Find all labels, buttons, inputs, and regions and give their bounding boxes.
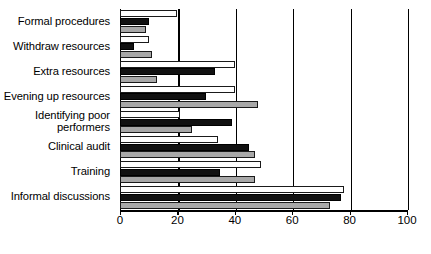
bar — [120, 76, 157, 83]
category-label-line: Evening up resources — [0, 90, 110, 102]
category-label-line: Withdraw resources — [0, 40, 110, 52]
category-label-line: Informal discussions — [0, 190, 110, 202]
bar — [120, 18, 149, 25]
gridline-100 — [408, 9, 409, 210]
bar — [120, 126, 192, 133]
category-label: Evening up resources — [0, 90, 110, 102]
bar — [120, 61, 235, 68]
category-label-line: Formal procedures — [0, 15, 110, 27]
bar — [120, 10, 177, 17]
bar — [120, 36, 149, 43]
x-tick-label: 40 — [228, 214, 241, 226]
bar — [120, 43, 134, 50]
bar — [120, 169, 220, 176]
category-label: Extra resources — [0, 65, 110, 77]
gridline-80 — [351, 9, 352, 210]
bar — [120, 93, 206, 100]
category-label-column: Formal proceduresWithdraw resourcesExtra… — [0, 8, 114, 210]
category-label-line: Clinical audit — [0, 140, 110, 152]
category-label: Clinical audit — [0, 140, 110, 152]
bar — [120, 176, 255, 183]
x-tick-label: 100 — [397, 214, 416, 226]
category-label-line: Extra resources — [0, 65, 110, 77]
bar — [120, 51, 152, 58]
category-label: Identifying poorperformers — [0, 109, 110, 133]
category-label-line: performers — [0, 121, 110, 133]
category-label-line: Training — [0, 165, 110, 177]
category-label-line: Identifying poor — [0, 109, 110, 121]
bar — [120, 119, 232, 126]
bar — [120, 194, 341, 201]
bar — [120, 111, 180, 118]
x-tick-label: 80 — [343, 214, 356, 226]
bar — [120, 144, 249, 151]
bar — [120, 202, 330, 209]
horizontal-bar-chart: Formal proceduresWithdraw resourcesExtra… — [0, 0, 431, 254]
gridline-60 — [293, 9, 294, 210]
category-label: Formal procedures — [0, 15, 110, 27]
x-tick-label: 60 — [286, 214, 299, 226]
bar — [120, 68, 215, 75]
x-tick-label: 0 — [117, 214, 123, 226]
bar — [120, 101, 258, 108]
category-label: Withdraw resources — [0, 40, 110, 52]
bar — [120, 161, 261, 168]
x-tick-label: 20 — [171, 214, 184, 226]
category-label: Training — [0, 165, 110, 177]
bar — [120, 26, 146, 33]
bar — [120, 186, 344, 193]
category-label: Informal discussions — [0, 190, 110, 202]
plot-area — [120, 9, 407, 210]
x-axis-line — [120, 210, 407, 212]
bar — [120, 151, 255, 158]
bar — [120, 136, 218, 143]
bar — [120, 86, 235, 93]
